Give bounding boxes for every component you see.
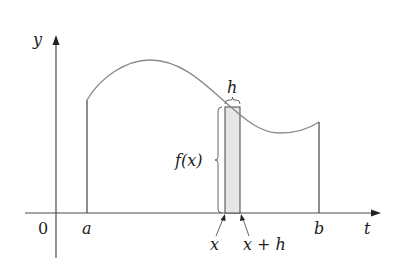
b-label: b bbox=[314, 219, 324, 238]
y-axis-arrow-icon bbox=[53, 35, 60, 45]
x-plus-h-pointer bbox=[240, 214, 249, 236]
y-axis-label: y bbox=[32, 30, 43, 49]
f-of-x-label: f(x) bbox=[174, 151, 202, 170]
x-plus-h-pointer-arrow-icon bbox=[240, 214, 245, 221]
width-brace bbox=[225, 97, 240, 104]
h-label: h bbox=[227, 78, 237, 97]
t-axis-arrow-icon bbox=[371, 210, 381, 217]
origin-label: 0 bbox=[38, 219, 48, 238]
x-pointer-arrow-icon bbox=[221, 214, 226, 221]
t-axis bbox=[25, 210, 381, 217]
height-brace bbox=[215, 107, 222, 213]
y-axis bbox=[53, 35, 60, 258]
x-plus-h-label: x + h bbox=[243, 235, 286, 254]
strip-rectangle bbox=[225, 107, 240, 213]
x-pointer bbox=[216, 214, 226, 236]
x-label: x bbox=[210, 235, 219, 254]
t-axis-label: t bbox=[364, 219, 371, 238]
function-curve bbox=[87, 60, 319, 133]
area-function-diagram: y 0 a b t x x + h h f(x) bbox=[0, 0, 399, 265]
a-label: a bbox=[82, 219, 92, 238]
